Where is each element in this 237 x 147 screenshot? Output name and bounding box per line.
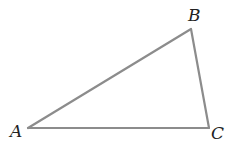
vertex-label-c: C bbox=[211, 123, 224, 143]
edge-ab bbox=[28, 29, 191, 128]
edge-bc bbox=[191, 29, 209, 128]
vertex-label-b: B bbox=[187, 5, 201, 25]
vertex-label-a: A bbox=[8, 121, 22, 141]
triangle-diagram: A B C bbox=[0, 0, 237, 147]
triangle-svg: A B C bbox=[0, 0, 237, 147]
